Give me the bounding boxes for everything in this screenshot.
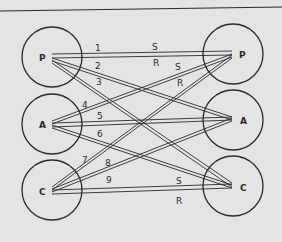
channel-label-top-s: S [152, 42, 158, 52]
channel-label-mid-r: R [177, 78, 183, 88]
edge-number-6: 6 [97, 129, 103, 139]
edges [52, 51, 232, 194]
edge-number-5: 5 [97, 111, 103, 121]
right-node-p-circle [203, 24, 263, 84]
connection-diagram: P A C P A C 1 2 3 4 5 6 7 8 9 S R S R S … [0, 0, 282, 242]
right-node-a-circle [203, 90, 263, 150]
edge-number-9: 9 [106, 175, 112, 185]
left-node-c-label: C [39, 187, 46, 197]
edge-number-4: 4 [82, 100, 88, 110]
channel-label-bottom-r: R [176, 196, 182, 206]
edge-number-2: 2 [95, 61, 101, 71]
top-rule [0, 7, 282, 11]
edge-number-8: 8 [105, 158, 111, 168]
channel-label-bottom-s: S [176, 176, 182, 186]
left-node-a-label: A [39, 120, 46, 130]
right-node-a-label: A [240, 116, 247, 126]
right-node-c-label: C [240, 183, 247, 193]
right-node-p-label: P [239, 50, 246, 60]
channel-label-mid-s: S [175, 62, 181, 72]
edge-number-1: 1 [95, 43, 101, 53]
channel-label-top-r: R [153, 58, 159, 68]
right-node-c-circle [203, 156, 263, 216]
left-node-p-label: P [39, 53, 46, 63]
edge-number-7: 7 [82, 155, 88, 165]
edge-number-3: 3 [96, 77, 102, 87]
